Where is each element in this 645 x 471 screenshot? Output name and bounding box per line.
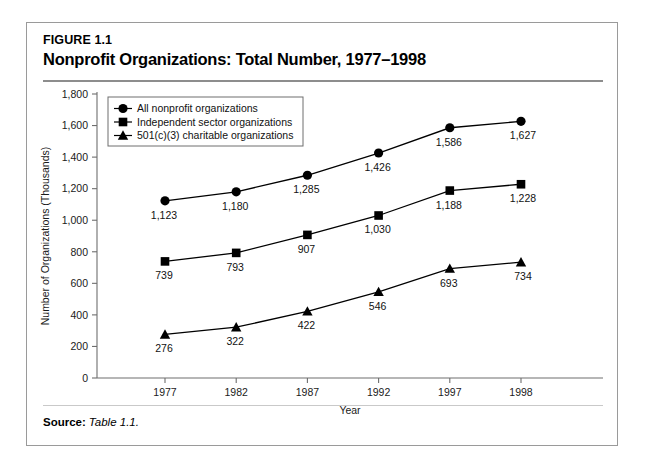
data-point-label: 1,188 <box>436 199 462 211</box>
data-point-label: 422 <box>298 319 316 331</box>
line-chart: 02004006008001,0001,2001,4001,6001,800Nu… <box>27 23 619 447</box>
data-point-label: 1,627 <box>510 129 536 141</box>
data-point-label: 793 <box>226 261 244 273</box>
data-point-square <box>374 211 383 220</box>
chart-plot-area: 02004006008001,0001,2001,4001,6001,800Nu… <box>27 23 619 447</box>
legend-label: Independent sector organizations <box>137 116 292 128</box>
data-point-circle <box>374 148 383 157</box>
data-point-circle <box>232 187 241 196</box>
legend-label: All nonprofit organizations <box>137 102 258 114</box>
data-point-label: 322 <box>226 335 244 347</box>
x-axis-tick-label: 1992 <box>367 386 391 398</box>
data-point-label: 1,180 <box>222 200 248 212</box>
legend-marker-circle <box>118 104 127 113</box>
source-divider <box>43 405 603 406</box>
data-point-square <box>161 257 170 266</box>
series-line-square <box>165 184 521 261</box>
x-axis-tick-label: 1997 <box>438 386 462 398</box>
data-point-label: 739 <box>155 269 173 281</box>
data-point-circle <box>303 171 312 180</box>
data-point-label: 734 <box>514 270 532 282</box>
y-axis-tick-label: 600 <box>70 277 88 289</box>
data-point-label: 693 <box>440 277 458 289</box>
data-point-label: 1,030 <box>364 223 390 235</box>
y-axis-tick-label: 1,000 <box>62 214 88 226</box>
data-point-square <box>303 231 312 240</box>
y-axis-tick-label: 1,200 <box>62 182 88 194</box>
y-axis-tick-label: 1,400 <box>62 151 88 163</box>
legend-label: 501(c)(3) charitable organizations <box>137 129 293 141</box>
data-point-label: 1,228 <box>510 192 536 204</box>
data-point-label: 276 <box>155 342 173 354</box>
y-axis-tick-label: 0 <box>82 372 88 384</box>
data-point-circle <box>445 123 454 132</box>
source-value: Table 1.1. <box>86 416 139 428</box>
data-point-square <box>446 186 455 195</box>
data-point-square <box>232 249 241 258</box>
data-point-circle <box>160 196 169 205</box>
data-point-label: 546 <box>369 300 387 312</box>
y-axis-tick-label: 800 <box>70 246 88 258</box>
y-axis-title: Number of Organizations (Thousands) <box>39 147 51 326</box>
y-axis-tick-label: 1,600 <box>62 119 88 131</box>
data-point-label: 1,426 <box>364 161 390 173</box>
data-point-label: 1,285 <box>293 183 319 195</box>
data-point-triangle <box>373 287 383 296</box>
x-axis-tick-label: 1982 <box>225 386 249 398</box>
data-point-label: 1,586 <box>436 136 462 148</box>
data-point-square <box>517 180 526 189</box>
y-axis-tick-label: 1,800 <box>62 88 88 100</box>
x-axis-tick-label: 1977 <box>153 386 177 398</box>
x-axis-tick-label: 1987 <box>296 386 320 398</box>
legend-marker-square <box>119 118 128 127</box>
x-axis-tick-label: 1998 <box>509 386 533 398</box>
figure-frame: FIGURE 1.1 Nonprofit Organizations: Tota… <box>26 22 618 446</box>
data-point-circle <box>516 117 525 126</box>
y-axis-tick-label: 200 <box>70 340 88 352</box>
series-line-triangle <box>165 262 521 334</box>
data-point-label: 1,123 <box>151 209 177 221</box>
y-axis-tick-label: 400 <box>70 309 88 321</box>
data-point-triangle <box>516 257 526 266</box>
source-note: Source:Table 1.1. <box>43 415 139 429</box>
source-label: Source: <box>43 416 86 428</box>
data-point-label: 907 <box>298 243 316 255</box>
